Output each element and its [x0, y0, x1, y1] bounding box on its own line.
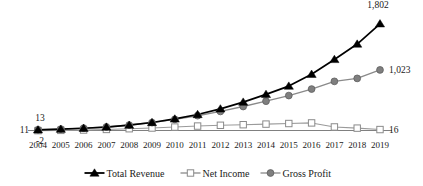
- x-tick-labels-group: 2004200520062007200820092010201120122013…: [29, 140, 390, 150]
- x-tick-label-2016: 2016: [303, 140, 322, 150]
- data-point-gross-profit-2016: [308, 86, 315, 93]
- data-point-total-revenue-2015: [284, 82, 293, 89]
- data-point-gross-profit-2017: [331, 78, 338, 85]
- chart-canvas: 2004200520062007200820092010201120122013…: [0, 0, 423, 186]
- legend-label-total-revenue: Total Revenue: [107, 168, 165, 179]
- value-labels-group: 1113-21,8021,02316: [20, 0, 411, 146]
- data-label-net-start: -2: [36, 136, 44, 146]
- series-markers-group: [33, 20, 384, 134]
- x-tick-label-2013: 2013: [234, 140, 253, 150]
- data-point-net-income-2012: [217, 122, 223, 128]
- x-tick-label-2005: 2005: [52, 140, 71, 150]
- series-lines-group: [38, 24, 380, 131]
- chart-legend: Total RevenueNet IncomeGross Profit: [85, 168, 332, 179]
- legend-label-net-income: Net Income: [203, 168, 250, 179]
- data-point-gross-profit-2019: [377, 67, 384, 74]
- data-point-net-income-2014: [263, 121, 269, 127]
- x-tick-label-2010: 2010: [166, 140, 185, 150]
- data-label-net-end: 16: [389, 125, 399, 135]
- x-tick-label-2014: 2014: [257, 140, 276, 150]
- data-point-net-income-2019: [377, 126, 383, 132]
- x-tick-label-2008: 2008: [120, 140, 139, 150]
- x-tick-label-2019: 2019: [371, 140, 390, 150]
- data-label-revenue-start: 11: [20, 125, 29, 135]
- x-tick-label-2012: 2012: [211, 140, 229, 150]
- x-tick-label-2007: 2007: [97, 140, 116, 150]
- data-point-net-income-2017: [331, 124, 337, 130]
- data-point-net-income-2013: [240, 121, 246, 127]
- x-tick-label-2015: 2015: [280, 140, 299, 150]
- data-label-gross-start: 13: [35, 113, 45, 123]
- series-line-gross-profit: [38, 70, 380, 130]
- x-tick-label-2017: 2017: [325, 140, 344, 150]
- legend-label-gross-profit: Gross Profit: [283, 168, 332, 179]
- x-tick-label-2009: 2009: [143, 140, 162, 150]
- x-tick-label-2006: 2006: [75, 140, 94, 150]
- legend-marker-gross-profit: [267, 170, 274, 177]
- data-point-net-income-2010: [172, 124, 178, 130]
- data-point-gross-profit-2014: [263, 98, 270, 105]
- data-point-total-revenue-2019: [375, 20, 384, 27]
- x-tick-label-2018: 2018: [348, 140, 367, 150]
- data-point-net-income-2015: [286, 120, 292, 126]
- data-label-revenue-end: 1,802: [367, 0, 389, 10]
- data-label-gross-end: 1,023: [389, 65, 411, 75]
- series-line-net-income: [38, 123, 380, 131]
- data-point-gross-profit-2015: [285, 92, 292, 99]
- data-point-net-income-2018: [354, 125, 360, 131]
- data-point-net-income-2016: [308, 120, 314, 126]
- x-tick-label-2011: 2011: [189, 140, 207, 150]
- data-point-net-income-2011: [194, 123, 200, 129]
- line-chart-figure: 2004200520062007200820092010201120122013…: [0, 0, 423, 186]
- data-point-gross-profit-2018: [354, 75, 361, 82]
- legend-marker-net-income: [187, 170, 193, 176]
